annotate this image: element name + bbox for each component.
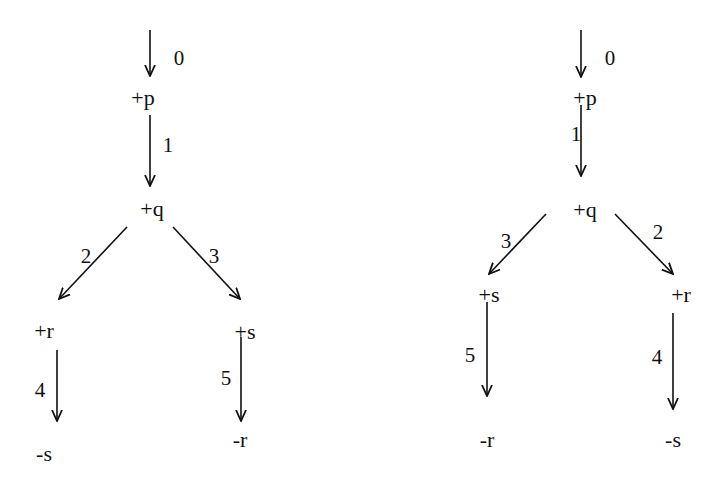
edge-step-label: 5 [465, 345, 476, 366]
edges-layer [0, 0, 722, 489]
edge-step-label: 5 [221, 368, 232, 389]
arrow-icon [615, 214, 673, 274]
node-label: +r [34, 320, 54, 342]
edge-step-label: 1 [163, 135, 174, 156]
edge-step-label: 1 [571, 124, 582, 145]
edge-step-label: 2 [653, 222, 664, 243]
edge-step-label: 0 [174, 48, 185, 69]
node-label: +s [479, 284, 500, 306]
node-label: +s [235, 321, 256, 343]
node-label: +q [140, 198, 163, 220]
node-label: +q [573, 199, 596, 221]
edge-step-label: 2 [81, 246, 92, 267]
node-label: -s [665, 429, 681, 451]
edge-step-label: 4 [652, 347, 663, 368]
edge-step-label: 3 [501, 231, 512, 252]
node-label: -s [36, 443, 52, 465]
node-label: -r [233, 429, 248, 451]
diagram-canvas: 012345+p+q+r+s-s-r 013254+p+q+s+r-r-s [0, 0, 722, 489]
node-label: +p [573, 87, 596, 109]
node-label: +p [131, 87, 154, 109]
edge-step-label: 4 [35, 380, 46, 401]
arrow-icon [173, 227, 240, 299]
arrow-icon [489, 214, 546, 274]
node-label: +r [671, 284, 691, 306]
edge-step-label: 0 [605, 48, 616, 69]
arrow-icon [59, 227, 127, 299]
node-label: -r [480, 429, 495, 451]
edge-step-label: 3 [209, 246, 220, 267]
